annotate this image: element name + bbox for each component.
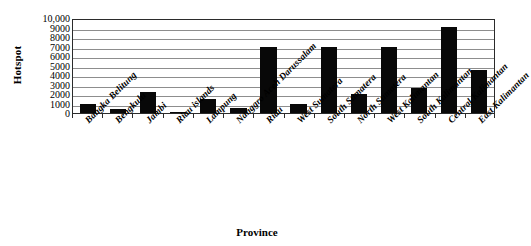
bar-slot [163, 20, 193, 113]
y-axis-tick-label: 8000 [26, 33, 70, 43]
x-axis-title-label: Province [236, 226, 277, 238]
y-axis-tick-label: 2000 [26, 90, 70, 100]
y-axis-tick-label: 4000 [26, 71, 70, 81]
y-axis-tick-label: 10,000 [26, 14, 70, 24]
y-axis-title: Hotspot [7, 20, 27, 110]
y-axis-tick-label: 3000 [26, 81, 70, 91]
y-axis-tick-label: 9000 [26, 24, 70, 34]
y-axis-tick-label: 7000 [26, 43, 70, 53]
bar-slot [73, 20, 103, 113]
x-axis-title: Province [0, 226, 514, 238]
x-axis-tick-labels: Bangka BelitungBengkuluJambiRiau islands… [0, 118, 514, 222]
y-axis-tick-label: 1000 [26, 100, 70, 110]
y-axis-tick-label: 6000 [26, 52, 70, 62]
y-axis-tick-label: 5000 [26, 62, 70, 72]
y-axis-tick-labels: 010002000300040005000600070008000900010,… [26, 14, 70, 115]
y-axis-title-label: Hotspot [11, 46, 23, 85]
